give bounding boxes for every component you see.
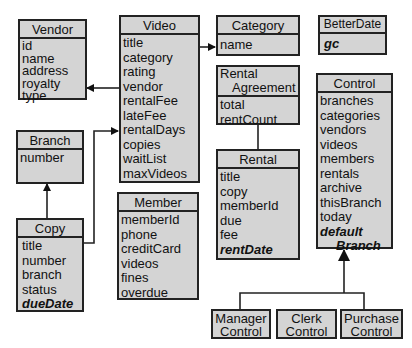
class-name: Rental — [218, 151, 298, 169]
attribute: dueDate — [22, 297, 82, 312]
attribute-list: total rentCount — [218, 97, 298, 127]
attribute: branches — [320, 94, 391, 109]
class-name-line2: Control — [213, 325, 269, 338]
attribute-list: gc — [320, 34, 385, 52]
attribute: fines — [121, 271, 197, 286]
attribute: copy — [220, 185, 298, 200]
class-copy[interactable]: Copy title number branch status dueDate — [16, 218, 84, 312]
attribute: copies — [123, 138, 198, 153]
class-vendor[interactable]: Vendor id name address royalty type — [18, 19, 87, 100]
attribute: categories — [320, 109, 391, 124]
class-branch[interactable]: Branch number — [16, 130, 84, 184]
attribute: thisBranch — [320, 196, 391, 211]
attribute-list: name — [218, 35, 298, 53]
attribute: maxVideos — [123, 167, 198, 182]
attribute: Branch — [320, 239, 391, 254]
attribute: name — [220, 38, 298, 53]
attribute: videos — [320, 138, 391, 153]
class-name: Rental Agreement — [218, 67, 298, 97]
attribute: default — [320, 225, 391, 240]
attribute: phone — [121, 228, 197, 243]
attribute-list: title category rating vendor rentalFee l… — [121, 35, 198, 181]
attribute: vendor — [123, 80, 198, 95]
class-name-line2: Agreement — [220, 81, 298, 95]
attribute: vendors — [320, 123, 391, 138]
class-rental-agreement[interactable]: Rental Agreement total rentCount — [216, 65, 300, 125]
attribute: gc — [324, 37, 385, 52]
class-name: Video — [121, 17, 198, 35]
attribute: status — [22, 283, 82, 298]
attribute: memberId — [121, 213, 197, 228]
class-name-line2: Control — [278, 325, 335, 338]
attribute: branch — [22, 268, 82, 283]
attribute: waitList — [123, 152, 198, 167]
class-rental[interactable]: Rental title copy memberId due fee rentD… — [216, 149, 300, 260]
attribute: category — [123, 51, 198, 66]
attribute: creditCard — [121, 242, 197, 257]
control-generalization-branches — [240, 293, 364, 309]
attribute: rating — [123, 65, 198, 80]
attribute: type — [22, 90, 85, 103]
attribute-list: title copy memberId due fee rentDate — [218, 169, 298, 257]
attribute-list: branches categories vendors videos membe… — [318, 93, 391, 254]
class-betterdate[interactable]: BetterDate gc — [318, 15, 387, 55]
attribute: due — [220, 214, 298, 229]
attribute: members — [320, 152, 391, 167]
attribute: total — [220, 98, 298, 113]
class-clerk-control[interactable]: Clerk Control — [276, 309, 337, 339]
attribute: memberId — [220, 199, 298, 214]
attribute: title — [22, 239, 82, 254]
attribute: today — [320, 210, 391, 225]
attribute: title — [220, 170, 298, 185]
class-name: Branch — [18, 132, 82, 150]
class-category[interactable]: Category name — [216, 15, 300, 56]
attribute-list: number — [18, 150, 82, 166]
class-video[interactable]: Video title category rating vendor renta… — [119, 15, 200, 183]
class-manager-control[interactable]: Manager Control — [211, 309, 271, 339]
class-name: Copy — [18, 220, 82, 238]
class-name: Category — [218, 17, 298, 35]
attribute: rentals — [320, 167, 391, 182]
attribute: archive — [320, 181, 391, 196]
attribute-list: memberId phone creditCard videos fines o… — [119, 212, 197, 300]
attribute: title — [123, 36, 198, 51]
class-name: Member — [119, 194, 197, 212]
class-name-line2: Control — [342, 325, 401, 338]
class-name: BetterDate — [320, 17, 385, 34]
attribute-list: title number branch status dueDate — [18, 238, 82, 312]
class-name-line1: Rental — [220, 67, 298, 81]
copy-video-association — [83, 131, 118, 243]
attribute: videos — [121, 257, 197, 272]
class-member[interactable]: Member memberId phone creditCard videos … — [117, 192, 199, 300]
attribute: rentDate — [220, 243, 298, 258]
class-control[interactable]: Control branches categories vendors vide… — [316, 73, 393, 249]
class-name: Vendor — [20, 21, 85, 39]
attribute: lateFee — [123, 109, 198, 124]
attribute: fee — [220, 228, 298, 243]
attribute: overdue — [121, 286, 197, 301]
attribute: number — [22, 254, 82, 269]
attribute: rentCount — [220, 113, 298, 128]
attribute: number — [20, 151, 82, 166]
attribute-list: id name address royalty type — [20, 39, 85, 103]
attribute: rentalFee — [123, 94, 198, 109]
class-name: Control — [318, 75, 391, 93]
attribute: rentalDays — [123, 123, 198, 138]
class-purchase-control[interactable]: Purchase Control — [340, 309, 403, 339]
